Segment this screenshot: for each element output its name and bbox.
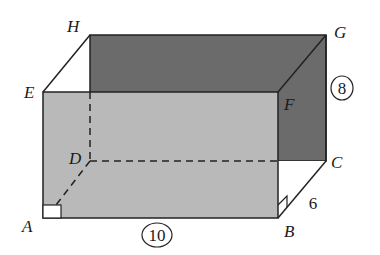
vertex-label-g: G [334,23,346,42]
edge-eh [43,35,90,92]
vertex-label-d: D [68,149,82,168]
dimension-label-width: 6 [309,194,318,213]
vertex-label-h: H [66,17,81,36]
vertex-label-b: B [284,222,295,241]
dimension-label-length: 10 [149,226,166,245]
vertex-label-a: A [21,217,33,236]
dimension-label-height: 8 [338,79,347,98]
vertex-label-f: F [283,95,295,114]
vertex-label-e: E [23,83,35,102]
vertex-label-c: C [331,153,343,172]
rectangular-prism-diagram: H G E F D C A B 10 8 6 [0,0,380,255]
right-angle-marker-a [43,205,61,218]
